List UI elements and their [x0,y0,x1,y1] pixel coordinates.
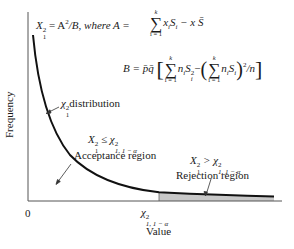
acceptance-region-label: Acceptance region [74,150,156,161]
acceptance-arrow [56,164,71,185]
formula-b-definition: B = p̄q̄ [k∑i = 1niS2i−(k∑i = 1niSi)2/n] [123,55,262,83]
formula-a-sum: k∑i = 1xiSi − x S̄ [149,9,203,37]
distribution-label: χ21distribution [61,98,120,118]
formula-chi-square-statistic: X21 = A2/B, where A = [36,20,130,40]
y-axis-label: Frequency [3,92,15,138]
x-axis-label: Value [146,226,171,237]
origin-tick-label: 0 [25,208,31,219]
rejection-region-label: Rejection region [176,170,249,181]
